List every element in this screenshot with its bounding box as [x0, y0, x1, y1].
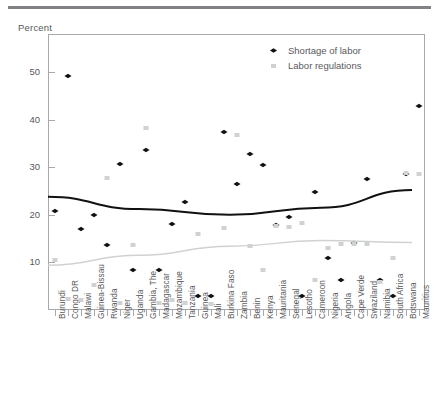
x-tick-mark [68, 310, 69, 316]
x-category-label: Cape Verde [357, 275, 366, 319]
data-point-labor-regulations [416, 172, 421, 176]
data-point-labor-regulations [195, 232, 200, 236]
data-point-labor-regulations [182, 301, 187, 305]
x-tick-mark [250, 310, 251, 316]
chart-legend: Shortage of labor Labor regulations [262, 43, 361, 73]
x-tick-mark [367, 310, 368, 316]
x-category-label: Tanzania [188, 285, 197, 319]
data-point-labor-regulations [377, 280, 382, 284]
top-divider [8, 6, 431, 9]
data-point-labor-regulations [143, 126, 148, 130]
x-tick-mark [146, 310, 147, 316]
x-category-label: Swaziland [370, 281, 379, 319]
legend-label: Shortage of labor [284, 45, 361, 56]
x-category-label: Burkina Faso [227, 270, 236, 319]
y-tick-mark [48, 215, 55, 216]
x-category-label: Senegal [292, 288, 301, 319]
x-tick-mark [120, 310, 121, 316]
x-tick-mark [185, 310, 186, 316]
y-tick-mark [48, 262, 55, 263]
y-tick-label: 20 [18, 209, 40, 220]
x-category-label: Mozambique [175, 271, 184, 319]
data-point-labor-regulations [221, 226, 226, 230]
x-tick-mark [224, 310, 225, 316]
x-category-label: Malawi [84, 293, 93, 319]
x-category-label: Kenya [266, 295, 275, 319]
square-marker-icon [262, 64, 284, 68]
y-tick-label: 50 [18, 66, 40, 77]
x-category-label: Angola [344, 293, 353, 319]
x-tick-mark [289, 310, 290, 316]
x-tick-mark [55, 310, 56, 316]
x-tick-mark [211, 310, 212, 316]
x-category-label: Mauritius [422, 285, 431, 319]
x-tick-mark [419, 310, 420, 316]
x-tick-mark [107, 310, 108, 316]
data-point-labor-regulations [234, 133, 239, 137]
data-point-labor-regulations [78, 298, 83, 302]
data-point-labor-regulations [91, 283, 96, 287]
data-point-labor-regulations [286, 225, 291, 229]
data-point-labor-regulations [364, 242, 369, 246]
x-tick-mark [354, 310, 355, 316]
x-tick-mark [198, 310, 199, 316]
x-category-label: Benin [253, 298, 262, 319]
data-point-labor-regulations [156, 301, 161, 305]
x-category-label: Namibia [383, 288, 392, 319]
x-tick-mark [302, 310, 303, 316]
x-category-label: Gambia, The [149, 271, 158, 319]
data-point-labor-regulations [338, 242, 343, 246]
x-category-label: Cameroon [318, 280, 327, 319]
data-point-labor-regulations [403, 171, 408, 175]
x-tick-mark [159, 310, 160, 316]
x-tick-mark [380, 310, 381, 316]
axis-unit-label: Percent [18, 22, 52, 33]
x-category-label: South Africa [396, 274, 405, 319]
diamond-marker-icon [262, 48, 284, 53]
x-category-label: Uganda [136, 290, 145, 319]
x-tick-mark [276, 310, 277, 316]
x-category-label: Madagascar [162, 273, 171, 319]
data-point-labor-regulations [169, 298, 174, 302]
x-tick-mark [406, 310, 407, 316]
data-point-labor-regulations [52, 258, 57, 262]
data-point-labor-regulations [390, 256, 395, 260]
y-tick-label: 30 [18, 161, 40, 172]
data-point-labor-regulations [208, 302, 213, 306]
legend-label: Labor regulations [284, 60, 361, 71]
data-point-labor-regulations [130, 243, 135, 247]
x-tick-mark [315, 310, 316, 316]
x-tick-mark [328, 310, 329, 316]
x-category-label: Niger [123, 299, 132, 319]
legend-item-shortage-of-labor: Shortage of labor [262, 43, 361, 58]
data-point-labor-regulations [312, 278, 317, 282]
x-category-label: Lesotho [305, 289, 314, 319]
x-tick-mark [237, 310, 238, 316]
y-tick-mark [48, 72, 55, 73]
x-tick-mark [81, 310, 82, 316]
x-tick-mark [263, 310, 264, 316]
data-point-labor-regulations [117, 301, 122, 305]
x-tick-mark [341, 310, 342, 316]
data-point-labor-regulations [299, 221, 304, 225]
y-tick-mark [48, 120, 55, 121]
data-point-labor-regulations [65, 297, 70, 301]
x-tick-mark [133, 310, 134, 316]
x-tick-mark [94, 310, 95, 316]
data-point-labor-regulations [247, 244, 252, 248]
x-tick-mark [393, 310, 394, 316]
data-point-labor-regulations [351, 242, 356, 246]
data-point-labor-regulations [273, 224, 278, 228]
data-point-labor-regulations [260, 268, 265, 272]
x-category-label: Mauritania [279, 280, 288, 319]
x-category-label: Burundi [58, 290, 67, 319]
x-category-label: Guinea-Bissau [97, 264, 106, 319]
y-tick-label: 40 [18, 114, 40, 125]
x-tick-mark [172, 310, 173, 316]
y-tick-label: 10 [18, 256, 40, 267]
data-point-labor-regulations [104, 176, 109, 180]
y-tick-mark [48, 167, 55, 168]
x-category-label: Mali [214, 304, 223, 319]
x-category-label: Zambia [240, 291, 249, 319]
data-point-labor-regulations [325, 246, 330, 250]
